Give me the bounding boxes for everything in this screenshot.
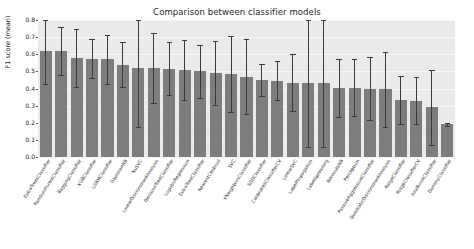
error-bar-line: [308, 20, 309, 147]
bar-group: [318, 20, 330, 157]
error-bar-line: [400, 76, 401, 124]
error-bar-line: [153, 33, 154, 103]
x-tick-label: BernoulliNB: [327, 159, 345, 184]
bar-group: [379, 20, 391, 157]
x-tick-label: SVC: [228, 159, 237, 169]
y-axis-ticks: 0.00.10.20.30.40.50.60.70.8: [0, 20, 38, 157]
error-bar-line: [261, 64, 262, 97]
error-bar-cap-upper: [58, 27, 63, 28]
error-bar-cap-lower: [136, 127, 141, 128]
error-bar-line: [277, 61, 278, 100]
y-tick-label: 0.5: [9, 68, 35, 74]
bar-group: [256, 20, 268, 157]
y-tick-label: 0.2: [9, 120, 35, 126]
bar-group: [117, 20, 129, 157]
error-bar-cap-upper: [89, 39, 94, 40]
error-bar-cap-lower: [74, 87, 79, 88]
bar-group: [194, 20, 206, 157]
y-tick-label: 0.0: [9, 154, 35, 160]
error-bar-cap-lower: [58, 75, 63, 76]
bar-group: [302, 20, 314, 157]
error-bar-line: [92, 39, 93, 78]
bar-group: [333, 20, 345, 157]
error-bar-line: [200, 45, 201, 98]
error-bar-cap-lower: [228, 112, 233, 113]
error-bar-cap-upper: [74, 29, 79, 30]
error-bar-cap-upper: [120, 42, 125, 43]
error-bar-cap-lower: [151, 103, 156, 104]
error-bar-line: [231, 36, 232, 111]
error-bar-cap-upper: [336, 59, 341, 60]
error-bar-line: [431, 70, 432, 145]
error-bar-line: [292, 54, 293, 111]
bar-group: [395, 20, 407, 157]
bar-group: [287, 20, 299, 157]
error-bar-cap-lower: [290, 111, 295, 112]
error-bar-cap-upper: [244, 39, 249, 40]
bar-group: [148, 20, 160, 157]
error-bar-cap-lower: [306, 147, 311, 148]
error-bar-cap-lower: [321, 147, 326, 148]
error-bar-line: [385, 52, 386, 127]
error-bar-line: [169, 42, 170, 95]
error-bar-line: [339, 59, 340, 117]
error-bar-cap-lower: [367, 120, 372, 121]
page-title: Comparison between classifier models: [0, 7, 474, 17]
error-bar-cap-lower: [275, 100, 280, 101]
bar-group: [86, 20, 98, 157]
bar-group: [179, 20, 191, 157]
error-bar-cap-upper: [151, 33, 156, 34]
error-bar-cap-lower: [336, 117, 341, 118]
x-tick-label: NuSVC: [132, 159, 144, 175]
y-tick-label: 0.4: [9, 86, 35, 92]
error-bar-line: [122, 42, 123, 87]
error-bar-line: [184, 40, 185, 100]
bar-group: [240, 20, 252, 157]
x-tick-label: CalibratedClassifierCV: [252, 159, 284, 204]
error-bar-cap-upper: [182, 40, 187, 41]
error-bar-cap-upper: [197, 45, 202, 46]
error-bar-line: [138, 20, 139, 127]
error-bar-line: [76, 29, 77, 87]
bar-group: [225, 20, 237, 157]
plot-area: [38, 20, 455, 157]
y-tick-label: 0.1: [9, 137, 35, 143]
error-bar-cap-upper: [43, 20, 48, 21]
y-tick-label: 0.3: [9, 103, 35, 109]
error-bar-cap-lower: [398, 124, 403, 125]
error-bar-cap-upper: [367, 57, 372, 58]
error-bar-cap-upper: [383, 52, 388, 53]
x-axis-tick-labels: ExtraTreesClassifierRandomForestClassifi…: [38, 157, 455, 249]
bar-group: [410, 20, 422, 157]
y-tick-label: 0.6: [9, 51, 35, 57]
error-bar-line: [323, 20, 324, 147]
error-bar-cap-lower: [244, 114, 249, 115]
figure: Comparison between classifier models F1 …: [0, 0, 474, 249]
bar-group: [55, 20, 67, 157]
error-bar-cap-lower: [167, 95, 172, 96]
error-bar-cap-lower: [89, 78, 94, 79]
error-bar-cap-lower: [120, 87, 125, 88]
error-bar-cap-lower: [414, 124, 419, 125]
error-bar-line: [215, 41, 216, 104]
error-bar-cap-upper: [290, 54, 295, 55]
error-bar-cap-upper: [398, 76, 403, 77]
bar-group: [132, 20, 144, 157]
error-bar-cap-upper: [136, 20, 141, 21]
error-bar-cap-lower: [352, 116, 357, 117]
error-bar-line: [370, 57, 371, 120]
bar-group: [163, 20, 175, 157]
error-bar-cap-lower: [445, 126, 450, 127]
error-bar-cap-lower: [105, 84, 110, 85]
bar-group: [71, 20, 83, 157]
error-bar-cap-lower: [182, 100, 187, 101]
error-bar-cap-lower: [429, 145, 434, 146]
bar-group: [441, 20, 453, 157]
bar-group: [349, 20, 361, 157]
error-bar-cap-upper: [167, 42, 172, 43]
error-bar-cap-lower: [43, 84, 48, 85]
error-bar-cap-lower: [213, 105, 218, 106]
bar-group: [271, 20, 283, 157]
error-bar-line: [107, 35, 108, 85]
y-tick-label: 0.7: [9, 34, 35, 40]
